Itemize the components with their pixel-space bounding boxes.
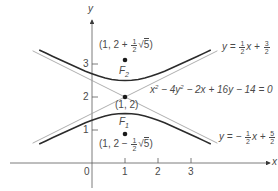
intercept-fraction: 52 xyxy=(269,130,275,145)
y-tick-label-2: 2 xyxy=(83,92,89,102)
y-tick-label-3: 3 xyxy=(83,59,89,69)
asymptote-label-negative: y = − 12x + 52 xyxy=(219,130,276,145)
hyperbola-diagram xyxy=(0,0,278,191)
eq-term-y: − 4y xyxy=(158,84,180,95)
denominator: 2 xyxy=(131,46,137,53)
focus-f2-coordinates: (1, 2 + 12√5) xyxy=(99,38,153,53)
origin-label: 0 xyxy=(84,167,90,177)
asym-prefix: y = xyxy=(222,41,238,52)
denominator: 2 xyxy=(269,138,275,145)
focus-f2-label: F2 xyxy=(119,66,129,78)
numerator: 1 xyxy=(131,38,137,46)
slope-fraction: 12 xyxy=(245,130,251,145)
numerator: 1 xyxy=(239,40,245,48)
x-tick-label-1: 1 xyxy=(122,167,128,177)
denominator: 2 xyxy=(239,48,245,55)
focus-f1-label: F1 xyxy=(119,117,129,129)
fraction: 12 xyxy=(131,137,137,152)
focus-f1-coordinates: (1, 2 − 12√5) xyxy=(99,137,153,152)
denominator: 2 xyxy=(264,48,270,55)
x-tick-label-3: 3 xyxy=(188,167,194,177)
numerator: 1 xyxy=(245,130,251,138)
asym-prefix: y = − xyxy=(219,131,244,142)
center-label: (1, 2) xyxy=(115,100,138,110)
numerator: 1 xyxy=(131,137,137,145)
eq-rest: − 2x + 16y − 14 = 0 xyxy=(184,84,273,95)
asymptote-label-positive: y = 12x + 32 xyxy=(222,40,271,55)
x-tick-label-2: 2 xyxy=(155,167,161,177)
numerator: 5 xyxy=(269,130,275,138)
focus-f1-point xyxy=(123,132,128,137)
intercept-fraction: 32 xyxy=(264,40,270,55)
focus-subscript: 1 xyxy=(125,122,129,129)
slope-fraction: 12 xyxy=(239,40,245,55)
focus-subscript: 2 xyxy=(125,71,129,78)
coord-suffix: ) xyxy=(149,138,152,149)
x-axis-label: x xyxy=(272,157,277,167)
fraction: 12 xyxy=(131,38,137,53)
asym-mid: x + xyxy=(246,41,262,52)
coord-prefix: (1, 2 + xyxy=(99,39,130,50)
denominator: 2 xyxy=(131,145,137,152)
denominator: 2 xyxy=(245,138,251,145)
focus-f2-point xyxy=(123,58,128,63)
coord-prefix: (1, 2 − xyxy=(99,138,130,149)
asym-mid: x + xyxy=(252,131,268,142)
y-axis-label: y xyxy=(88,4,93,14)
coord-suffix: ) xyxy=(149,39,152,50)
hyperbola-equation: x2 − 4y2 − 2x + 16y − 14 = 0 xyxy=(150,84,273,95)
y-tick-label-1: 1 xyxy=(83,125,89,135)
numerator: 3 xyxy=(264,40,270,48)
